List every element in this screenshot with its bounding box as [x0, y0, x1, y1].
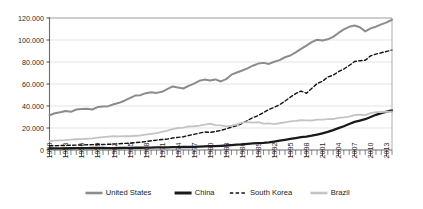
- x-axis-tick-label: 2013: [382, 143, 391, 159]
- x-axis-tick-label: 1995: [286, 143, 295, 159]
- x-axis-tick-label: 1971: [158, 143, 167, 159]
- x-axis-tick-label: 2007: [350, 143, 359, 159]
- series-line-south-korea: [50, 50, 393, 146]
- x-axis-tick-label: 1950: [45, 143, 54, 159]
- y-axis-tick-label: 40.000: [22, 102, 44, 111]
- legend-label-south-korea: South Korea: [250, 188, 293, 197]
- x-axis-tick-label: 2004: [334, 143, 343, 159]
- legend-label-china: China: [195, 188, 216, 197]
- x-axis-tick-label: 2010: [366, 143, 375, 159]
- x-axis-tick-label: 1980: [206, 143, 215, 159]
- y-axis-tick-label: 0: [40, 146, 44, 155]
- x-axis-tick-label: 2001: [318, 143, 327, 159]
- y-axis-tick-label: 100.000: [18, 36, 44, 45]
- line-chart: 020.00040.00060.00080.000100.000120.000 …: [0, 0, 423, 209]
- legend-label-united-states: United States: [106, 188, 152, 197]
- legend: United StatesChinaSouth KoreaBrazil: [86, 188, 350, 197]
- x-axis-tick-label: 1965: [126, 143, 135, 159]
- y-axis-tick-label: 20.000: [22, 124, 44, 133]
- legend-label-brazil: Brazil: [331, 188, 350, 197]
- x-axis-tick-label: 1977: [190, 143, 199, 159]
- gridlines-group: [50, 18, 393, 128]
- y-axis-tick-label: 60.000: [22, 80, 44, 89]
- series-line-united-states: [50, 20, 393, 115]
- x-axis-tick-label: 1989: [254, 143, 263, 159]
- x-axis-tick-label: 1968: [142, 143, 151, 159]
- x-axis-tick-label: 1974: [174, 143, 183, 159]
- x-axis-tick-label: 1998: [302, 143, 311, 159]
- x-axis-tick-label: 1992: [270, 143, 279, 159]
- chart-canvas: 020.00040.00060.00080.000100.000120.000 …: [0, 0, 423, 209]
- y-axis-tick-label: 80.000: [22, 58, 44, 67]
- x-axis-tick-label: 1962: [110, 143, 119, 159]
- y-axis-group: 020.00040.00060.00080.000100.000120.000: [18, 14, 49, 155]
- y-axis-tick-label: 120.000: [18, 14, 44, 23]
